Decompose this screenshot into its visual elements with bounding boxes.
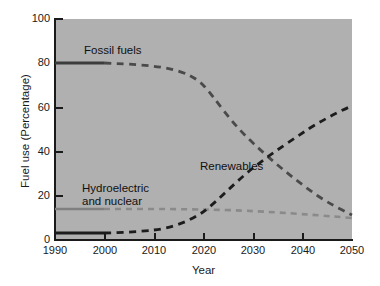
series-line-hydroelectric-and-nuclear-forecast — [104, 209, 352, 218]
chart-figure: 100 80 60 40 20 0 1990 2000 2010 2020 20… — [0, 0, 380, 286]
series-annotation-renewables: Renewables — [200, 160, 263, 173]
series-curves — [0, 0, 380, 286]
series-annotation-hydroelectric-and-nuclear: Hydroelectric and nuclear — [82, 182, 149, 208]
series-annotation-fossil-fuels: Fossil fuels — [84, 44, 142, 57]
